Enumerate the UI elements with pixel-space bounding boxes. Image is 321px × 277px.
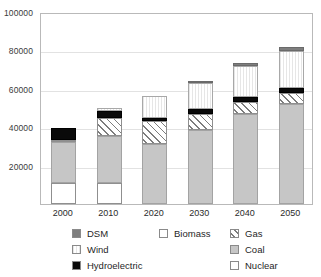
bar-stack[interactable]	[51, 128, 76, 204]
y-axis: 20000400006000080000100000	[0, 13, 36, 205]
y-tick-label: 100000	[4, 8, 33, 18]
legend-item-dsm[interactable]: DSM	[72, 226, 142, 241]
legend-item-gas[interactable]: Gas	[230, 226, 278, 241]
bar-segment-hydroelectric[interactable]	[233, 97, 258, 102]
bar-segment-gas[interactable]	[97, 118, 122, 136]
bar-stack[interactable]	[142, 96, 167, 204]
bar-stack[interactable]	[233, 63, 258, 204]
legend-swatch-icon	[159, 229, 168, 238]
legend-swatch-icon	[72, 261, 81, 270]
y-tick-label: 20000	[9, 162, 33, 172]
legend-swatch-icon	[230, 245, 239, 254]
chart-legend: DSMWindHydroelectric Biomass GasCoalNucl…	[0, 226, 321, 277]
bar-segment-wind[interactable]	[233, 66, 258, 98]
x-tick-label: 2000	[53, 208, 73, 218]
bar-segment-coal[interactable]	[233, 114, 258, 204]
gridline	[41, 91, 312, 92]
legend-column-1: DSMWindHydroelectric	[72, 226, 142, 274]
legend-item-hydroelectric[interactable]: Hydroelectric	[72, 258, 142, 273]
bar-segment-nuclear[interactable]	[97, 183, 122, 204]
plot-area	[40, 13, 313, 205]
bar-segment-coal[interactable]	[97, 136, 122, 183]
legend-column-2: Biomass	[159, 226, 210, 242]
bar-segment-dsm[interactable]	[279, 47, 304, 52]
gridline	[41, 52, 312, 53]
x-tick-label: 2010	[98, 208, 118, 218]
bar-stack[interactable]	[97, 108, 122, 204]
bar-segment-hydroelectric[interactable]	[188, 109, 213, 114]
y-tick-label: 60000	[9, 85, 33, 95]
x-tick-label: 2030	[189, 208, 209, 218]
legend-item-biomass[interactable]: Biomass	[159, 226, 210, 241]
legend-label: Wind	[87, 245, 109, 255]
x-tick-label: 2040	[235, 208, 255, 218]
bar-segment-hydroelectric[interactable]	[51, 128, 76, 140]
bar-segment-dsm[interactable]	[233, 63, 258, 66]
x-tick-label: 2020	[144, 208, 164, 218]
gridline	[41, 129, 312, 130]
y-tick-label: 80000	[9, 46, 33, 56]
bar-segment-gas[interactable]	[233, 102, 258, 114]
bar-segment-hydroelectric[interactable]	[142, 118, 167, 122]
x-axis: 200020102020203020402050	[40, 207, 313, 223]
legend-swatch-icon	[230, 261, 239, 270]
legend-swatch-icon	[72, 245, 81, 254]
bar-stack[interactable]	[279, 47, 304, 204]
bar-segment-wind[interactable]	[188, 83, 213, 109]
bar-segment-dsm[interactable]	[188, 81, 213, 83]
y-tick-label: 40000	[9, 123, 33, 133]
bar-segment-hydroelectric[interactable]	[279, 88, 304, 93]
legend-item-coal[interactable]: Coal	[230, 242, 278, 257]
legend-column-3: GasCoalNuclear	[230, 226, 278, 274]
bar-segment-coal[interactable]	[142, 144, 167, 204]
legend-swatch-icon	[230, 229, 239, 238]
bar-segment-coal[interactable]	[279, 104, 304, 204]
legend-item-wind[interactable]: Wind	[72, 242, 142, 257]
gridline	[41, 168, 312, 169]
bar-segment-wind[interactable]	[97, 108, 122, 111]
legend-label: Biomass	[174, 229, 210, 239]
bar-segment-gas[interactable]	[142, 121, 167, 144]
legend-item-nuclear[interactable]: Nuclear	[230, 258, 278, 273]
bar-segment-coal[interactable]	[51, 142, 76, 183]
bar-segment-wind[interactable]	[142, 96, 167, 118]
bar-segment-wind[interactable]	[279, 51, 304, 87]
legend-label: Gas	[245, 229, 262, 239]
bar-segment-nuclear[interactable]	[51, 183, 76, 204]
bar-segment-gas[interactable]	[188, 114, 213, 130]
bar-segment-hydroelectric[interactable]	[97, 111, 122, 118]
bar-segment-gas[interactable]	[279, 93, 304, 105]
bar-stack[interactable]	[188, 81, 213, 204]
x-tick-label: 2050	[280, 208, 300, 218]
legend-label: Coal	[245, 245, 265, 255]
legend-swatch-icon	[72, 229, 81, 238]
bar-segment-coal[interactable]	[188, 130, 213, 204]
legend-label: Hydroelectric	[87, 261, 142, 271]
legend-label: Nuclear	[245, 261, 278, 271]
stacked-bar-chart: 20000400006000080000100000 2000201020202…	[0, 0, 321, 277]
legend-label: DSM	[87, 229, 108, 239]
